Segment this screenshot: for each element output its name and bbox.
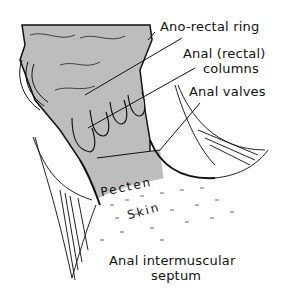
- label-intermuscular-septum: Anal intermuscular septum: [109, 253, 236, 283]
- label-anal-columns-line1: Anal (rectal): [183, 46, 265, 61]
- label-anal-valves: Anal valves: [189, 84, 266, 99]
- label-anal-columns: Anal (rectal) columns: [183, 46, 265, 76]
- label-septum-line1: Anal intermuscular: [109, 253, 236, 268]
- label-septum-line2: septum: [109, 268, 236, 283]
- label-anorectal-ring: Ano-rectal ring: [160, 19, 259, 34]
- label-anal-columns-line2: columns: [183, 61, 265, 76]
